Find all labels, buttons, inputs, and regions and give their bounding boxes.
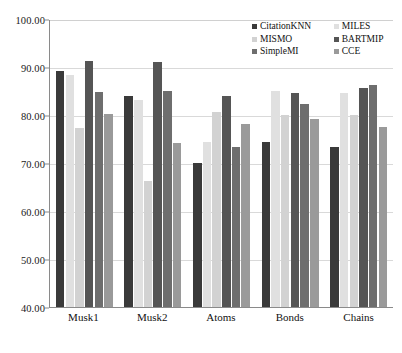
legend-item: CitationKNN xyxy=(252,22,326,32)
legend-item: MISMO xyxy=(252,35,326,45)
bar xyxy=(66,75,75,307)
legend-item: CCE xyxy=(334,47,398,57)
bar xyxy=(193,163,202,307)
bar xyxy=(134,100,143,307)
plot-area xyxy=(49,20,393,308)
legend-swatch-icon xyxy=(252,49,257,54)
bar xyxy=(350,115,359,307)
legend-item: MILES xyxy=(334,22,398,32)
bar-groups xyxy=(50,20,393,307)
y-axis-tick-label: 50.00 xyxy=(0,255,45,266)
bar-group xyxy=(187,20,256,307)
bar xyxy=(163,91,172,307)
y-axis-tick-label: 60.00 xyxy=(0,207,45,218)
legend-label: MILES xyxy=(342,22,371,32)
bar xyxy=(330,147,339,307)
y-axis-tick-mark xyxy=(45,164,49,165)
bar xyxy=(212,112,221,307)
bar xyxy=(241,124,250,307)
y-axis-tick-mark xyxy=(45,20,49,21)
legend-label: SimpleMI xyxy=(260,47,299,57)
bar xyxy=(153,62,162,307)
bar xyxy=(262,142,271,307)
x-axis-label: Atoms xyxy=(187,311,256,323)
bar xyxy=(291,93,300,307)
y-axis-tick-label: 100.00 xyxy=(0,15,45,26)
legend-item: SimpleMI xyxy=(252,47,326,57)
y-axis-tick-mark xyxy=(45,212,49,213)
bar xyxy=(359,88,368,307)
bar xyxy=(85,61,94,307)
chart-legend: CitationKNNMILESMISMOBARTMIPSimpleMICCE xyxy=(252,22,398,57)
legend-swatch-icon xyxy=(334,24,339,29)
bar xyxy=(340,93,349,307)
bar xyxy=(56,71,65,307)
y-axis-tick-label: 40.00 xyxy=(0,303,45,314)
x-axis-labels: Musk1Musk2AtomsBondsChains xyxy=(49,311,393,323)
bar-group xyxy=(50,20,119,307)
y-axis-tick-mark xyxy=(45,260,49,261)
bar xyxy=(271,91,280,307)
legend-label: BARTMIP xyxy=(342,35,384,45)
bar xyxy=(222,96,231,307)
y-axis-tick-label: 80.00 xyxy=(0,111,45,122)
legend-swatch-icon xyxy=(334,37,339,42)
bar xyxy=(95,92,104,307)
bar-group xyxy=(119,20,188,307)
legend-label: CCE xyxy=(342,47,360,57)
bar xyxy=(203,142,212,307)
legend-label: MISMO xyxy=(260,35,292,45)
bar xyxy=(173,143,182,307)
x-axis-label: Musk1 xyxy=(49,311,118,323)
bar xyxy=(232,147,241,307)
bar xyxy=(124,96,133,307)
legend-item: BARTMIP xyxy=(334,35,398,45)
bar xyxy=(369,85,378,307)
y-axis-tick-label: 70.00 xyxy=(0,159,45,170)
bar xyxy=(310,119,319,307)
x-axis-label: Musk2 xyxy=(118,311,187,323)
y-axis-tick-mark xyxy=(45,68,49,69)
legend-swatch-icon xyxy=(334,49,339,54)
bar-chart: Musk1Musk2AtomsBondsChains CitationKNNMI… xyxy=(0,0,402,353)
y-axis-tick-mark xyxy=(45,308,49,309)
bar-group xyxy=(324,20,393,307)
y-axis-tick-label: 90.00 xyxy=(0,63,45,74)
x-axis-label: Chains xyxy=(324,311,393,323)
legend-swatch-icon xyxy=(252,24,257,29)
bar xyxy=(144,181,153,307)
bar-group xyxy=(256,20,325,307)
bar xyxy=(300,104,309,307)
y-axis-tick-mark xyxy=(45,116,49,117)
x-axis-label: Bonds xyxy=(255,311,324,323)
legend-swatch-icon xyxy=(252,37,257,42)
bar xyxy=(104,114,113,307)
bar xyxy=(281,115,290,307)
bar xyxy=(379,127,388,307)
bar xyxy=(75,128,84,307)
legend-label: CitationKNN xyxy=(260,22,311,32)
